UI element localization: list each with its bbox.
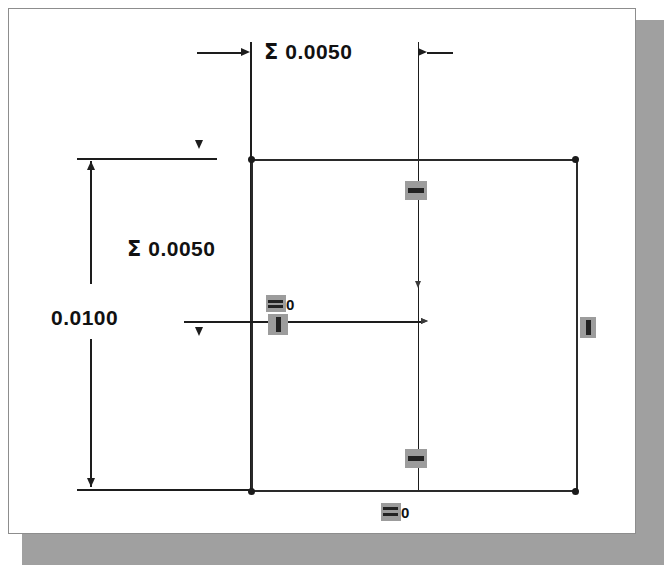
drawing-canvas[interactable]: Σ 0.0050 Σ xyxy=(9,9,635,533)
handle-mid-left[interactable] xyxy=(266,295,286,312)
handle-mid-left-2[interactable] xyxy=(268,314,288,335)
left-chain-arrow-top xyxy=(195,140,203,149)
screenshot-root: Σ 0.0050 Σ xyxy=(0,0,664,569)
handle-top-inner-glyph xyxy=(408,188,424,193)
overall-dim-line-lower xyxy=(90,339,92,487)
top-dim-arrow-right xyxy=(418,48,427,56)
top-dim-arrow-left xyxy=(241,48,250,56)
sketch-rectangle[interactable] xyxy=(251,159,578,492)
overall-dim-arrow-bottom xyxy=(87,478,95,487)
rect-corner-bottom-right[interactable] xyxy=(572,488,579,495)
overall-dimension-label[interactable]: 0.0100 xyxy=(51,306,118,330)
handle-mid-left-glyph-1 xyxy=(268,300,283,303)
overall-dim-line-upper xyxy=(90,161,92,284)
sigma-symbol-left: Σ xyxy=(127,237,142,261)
handle-bottom-in[interactable] xyxy=(405,449,427,468)
sigma-symbol-top: Σ xyxy=(264,40,279,64)
top-dim-line-right xyxy=(427,52,453,54)
top-dimension-label[interactable]: Σ 0.0050 xyxy=(264,40,352,64)
mid-horizontal-arrow xyxy=(421,318,428,324)
top-dimension-value: 0.0050 xyxy=(285,40,352,63)
handle-bottom-in-glyph xyxy=(408,456,424,461)
handle-bottom-out-glyph-2 xyxy=(383,513,398,516)
handle-bottom-out[interactable] xyxy=(381,503,401,521)
handle-right-edge[interactable] xyxy=(580,317,596,338)
left-chain-dimension-value: 0.0050 xyxy=(148,237,215,260)
handle-bottom-out-glyph-1 xyxy=(383,507,398,510)
overall-ext-line-bottom xyxy=(77,489,252,491)
rect-corner-top-left[interactable] xyxy=(248,156,255,163)
left-upper-ext-line-bottom xyxy=(184,321,424,323)
handle-mid-left-glyph-2 xyxy=(268,305,283,308)
handle-bottom-out-label: 0 xyxy=(401,504,409,521)
left-upper-ext-line-top xyxy=(77,158,217,160)
drawing-paper: Σ 0.0050 Σ xyxy=(8,8,636,534)
left-chain-arrow-bottom xyxy=(195,327,203,336)
left-chain-dimension-label[interactable]: Σ 0.0050 xyxy=(127,237,215,261)
handle-top-inner[interactable] xyxy=(405,181,427,200)
handle-right-edge-glyph xyxy=(586,320,591,335)
rect-corner-top-right[interactable] xyxy=(572,156,579,163)
top-dim-line-left xyxy=(197,52,245,54)
handle-mid-left-2-glyph xyxy=(276,317,281,332)
overall-dim-arrow-top xyxy=(87,161,95,170)
handle-mid-left-label: 0 xyxy=(286,296,294,313)
